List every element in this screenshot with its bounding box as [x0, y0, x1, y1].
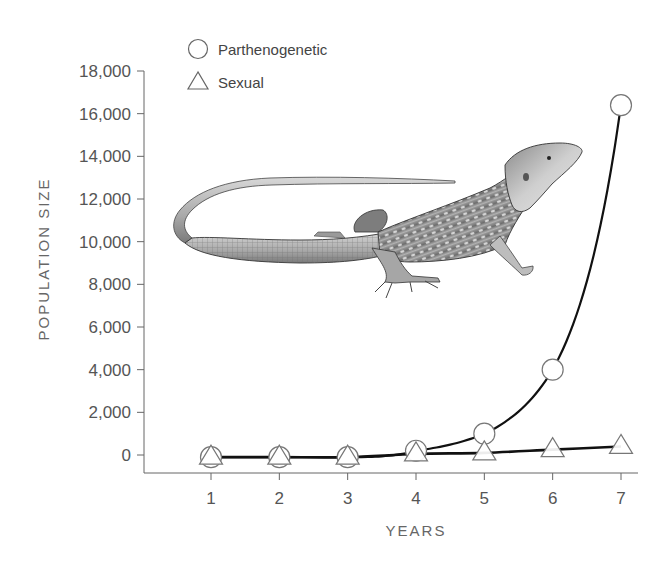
legend-item-sexual: Sexual [188, 72, 264, 91]
legend-label: Parthenogenetic [218, 41, 328, 58]
x-tick-label: 7 [616, 489, 625, 508]
x-tick-label: 3 [343, 489, 352, 508]
x-tick-label: 2 [275, 489, 284, 508]
y-tick-label: 0 [122, 446, 131, 465]
y-tick-label: 12,000 [79, 190, 131, 209]
parthenogenetic-data-point [611, 95, 632, 116]
lizard-illustration [174, 143, 582, 298]
legend: Parthenogenetic Sexual [188, 40, 328, 92]
x-axis: 1234567 [144, 473, 638, 508]
y-tick-label: 8,000 [88, 275, 131, 294]
circle-marker-icon [189, 40, 208, 59]
y-axis-title: POPULATION SIZE [35, 177, 52, 340]
sexual-data-point [610, 434, 633, 453]
population-growth-chart: Parthenogenetic Sexual 02,0004,0006,0008… [0, 0, 669, 575]
y-tick-label: 16,000 [79, 105, 131, 124]
sexual-data-point [541, 438, 564, 457]
x-tick-label: 4 [411, 489, 420, 508]
parthenogenetic-data-point [542, 359, 563, 380]
y-tick-label: 4,000 [88, 361, 131, 380]
y-tick-label: 18,000 [79, 62, 131, 81]
y-tick-label: 2,000 [88, 403, 131, 422]
y-tick-label: 10,000 [79, 233, 131, 252]
y-tick-label: 6,000 [88, 318, 131, 337]
y-axis: 02,0004,0006,0008,00010,00012,00014,0001… [79, 62, 144, 473]
x-axis-title: YEARS [386, 522, 447, 539]
x-tick-label: 6 [548, 489, 557, 508]
x-tick-label: 5 [480, 489, 489, 508]
sexual-data-point [473, 441, 496, 460]
legend-label: Sexual [218, 74, 264, 91]
x-tick-label: 1 [206, 489, 215, 508]
legend-item-parthenogenetic: Parthenogenetic [189, 40, 328, 59]
y-tick-label: 14,000 [79, 147, 131, 166]
triangle-marker-icon [188, 72, 208, 89]
